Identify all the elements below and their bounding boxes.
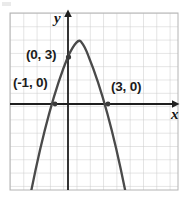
x-axis-label: x xyxy=(171,107,179,122)
grid-lines xyxy=(10,13,178,190)
point-marker-left-root xyxy=(53,102,58,107)
label-y-intercept: (0, 3) xyxy=(26,48,56,62)
coordinate-graph xyxy=(0,0,189,200)
parabola-figure: (0, 3) (-1, 0) (3, 0) y x xyxy=(0,0,189,200)
point-marker-right-root xyxy=(106,102,111,107)
point-marker-y-intercept xyxy=(66,54,71,59)
y-axis-label: y xyxy=(54,11,61,26)
label-right-root: (3, 0) xyxy=(111,80,141,94)
label-left-root: (-1, 0) xyxy=(13,76,48,90)
